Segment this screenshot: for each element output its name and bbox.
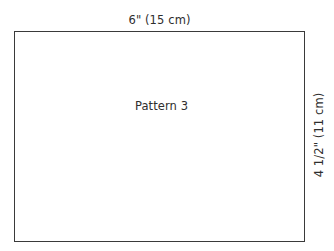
height-dimension-label: 4 1/2" (11 cm) [313,92,327,177]
pattern-diagram-canvas: 6" (15 cm) Pattern 3 4 1/2" (11 cm) [0,0,334,251]
height-dimension-label-container: 4 1/2" (11 cm) [305,31,334,242]
pattern-name-label: Pattern 3 [17,1,306,210]
pattern-rectangle: Pattern 3 [14,31,305,242]
